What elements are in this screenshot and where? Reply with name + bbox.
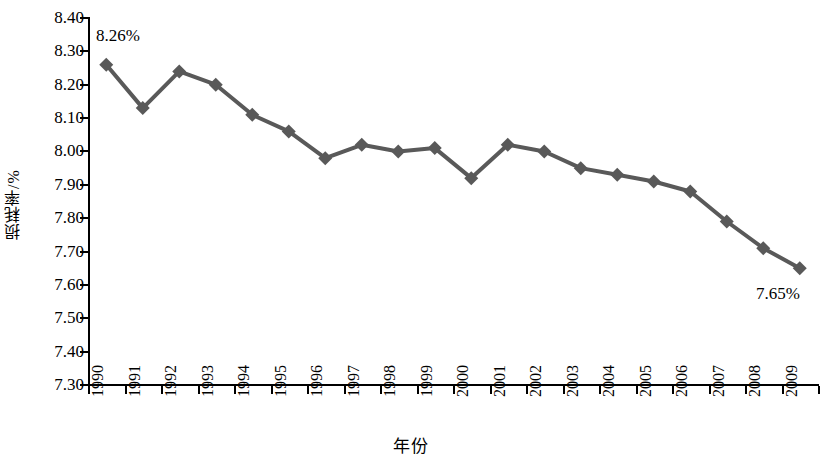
y-tick-label: 7.70: [26, 242, 84, 262]
x-tick-label: 1996: [308, 365, 326, 397]
x-tick-mark: [818, 386, 820, 394]
x-tick-label: 2003: [564, 365, 582, 397]
y-tick-mark: [80, 384, 88, 386]
x-tick-label: 2004: [600, 365, 618, 397]
y-tick-mark: [80, 217, 88, 219]
y-tick-mark: [80, 117, 88, 119]
y-tick-label: 7.50: [26, 308, 84, 328]
y-tick-label: 7.90: [26, 175, 84, 195]
x-tick-label: 1994: [235, 365, 253, 397]
x-tick-label: 2002: [527, 365, 545, 397]
first-value-label: 8.26%: [96, 26, 140, 46]
x-tick-label: 1995: [272, 365, 290, 397]
y-axis-tick-labels: 8.408.308.208.108.007.907.807.707.607.50…: [24, 0, 84, 463]
x-tick-label: 1997: [345, 365, 363, 397]
x-tick-label: 2000: [454, 365, 472, 397]
x-tick-label: 2007: [710, 365, 728, 397]
y-tick-mark: [80, 251, 88, 253]
x-tick-label: 2006: [673, 365, 691, 397]
y-tick-label: 8.20: [26, 75, 84, 95]
y-tick-label: 7.40: [26, 342, 84, 362]
x-tick-label: 2005: [637, 365, 655, 397]
last-value-label: 7.65%: [756, 284, 800, 304]
y-tick-mark: [80, 17, 88, 19]
y-tick-mark: [80, 84, 88, 86]
y-tick-label: 8.10: [26, 108, 84, 128]
y-tick-mark: [80, 284, 88, 286]
loss-rate-line-chart: 损耗率/% 8.408.308.208.108.007.907.807.707.…: [0, 0, 821, 463]
plot-area: [88, 18, 818, 385]
y-tick-mark: [80, 317, 88, 319]
y-tick-mark: [80, 351, 88, 353]
x-tick-label: 1999: [418, 365, 436, 397]
y-tick-label: 8.30: [26, 41, 84, 61]
y-tick-label: 8.00: [26, 141, 84, 161]
x-tick-label: 1992: [162, 365, 180, 397]
x-tick-label: 2008: [746, 365, 764, 397]
x-tick-label: 2009: [783, 365, 801, 397]
x-axis-title: 年份: [0, 432, 821, 457]
y-tick-label: 7.60: [26, 275, 84, 295]
y-tick-mark: [80, 184, 88, 186]
y-tick-label: 7.30: [26, 375, 84, 395]
x-tick-label: 1991: [126, 365, 144, 397]
x-tick-label: 1998: [381, 365, 399, 397]
y-tick-label: 8.40: [26, 8, 84, 28]
x-tick-label: 1993: [199, 365, 217, 397]
x-tick-label: 2001: [491, 365, 509, 397]
y-tick-label: 7.80: [26, 208, 84, 228]
y-tick-mark: [80, 150, 88, 152]
x-tick-label: 1990: [89, 365, 107, 397]
y-tick-mark: [80, 50, 88, 52]
